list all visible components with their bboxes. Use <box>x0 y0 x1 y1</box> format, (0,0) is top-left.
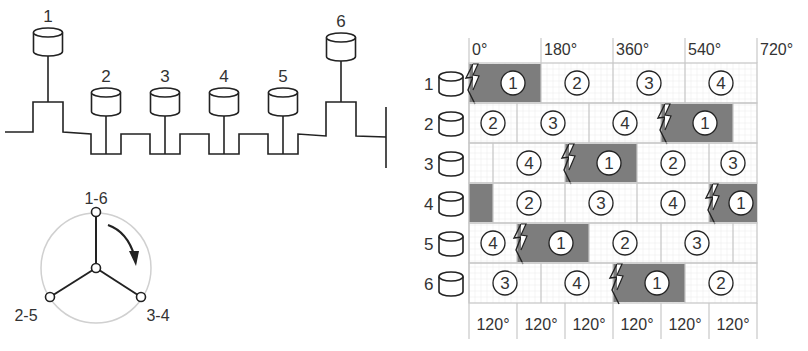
crank-throw-diagram: 1-62-53-4 <box>14 190 169 324</box>
svg-text:2-5: 2-5 <box>14 307 37 324</box>
cylinder-6-icon <box>327 33 356 61</box>
cylinder-5-icon <box>269 88 298 116</box>
svg-text:4: 4 <box>572 274 581 293</box>
svg-text:1: 1 <box>652 274 661 293</box>
chart-row-cylinder-6: 61234 <box>424 263 757 304</box>
cylinder-4-icon <box>210 88 239 116</box>
svg-text:2: 2 <box>620 234 629 253</box>
row-cylinder-icon <box>439 232 463 256</box>
row-cylinder-label: 6 <box>424 275 433 294</box>
degree-tick-label: 180° <box>544 41 577 58</box>
chart-row-cylinder-5: 51234 <box>424 223 757 264</box>
svg-text:3-4: 3-4 <box>146 307 169 324</box>
row-cylinder-icon <box>439 152 463 176</box>
cylinder-number-label: 3 <box>160 67 169 86</box>
row-cylinder-icon <box>439 192 463 216</box>
cylinder-2-icon <box>92 88 121 116</box>
cylinder-number-label: 4 <box>219 67 228 86</box>
svg-text:1: 1 <box>700 114 709 133</box>
svg-text:1-6: 1-6 <box>84 190 107 207</box>
svg-text:4: 4 <box>668 194 677 213</box>
svg-text:2: 2 <box>524 194 533 213</box>
cylinder-number-label: 5 <box>278 67 287 86</box>
svg-text:4: 4 <box>716 74 725 93</box>
row-cylinder-label: 3 <box>424 155 433 174</box>
row-cylinder-icon <box>439 72 463 96</box>
row-cylinder-label: 2 <box>424 115 433 134</box>
degree-tick-label: 0° <box>472 41 487 58</box>
chart-row-cylinder-3: 31234 <box>424 143 757 184</box>
svg-text:3: 3 <box>728 154 737 173</box>
svg-text:1: 1 <box>508 74 517 93</box>
svg-text:4: 4 <box>620 114 629 133</box>
diagram-canvas: 1234561-62-53-40°180°360°540°720°1123421… <box>0 0 808 351</box>
degree-tick-label: 360° <box>616 41 649 58</box>
svg-text:3: 3 <box>692 234 701 253</box>
row-cylinder-label: 1 <box>424 75 433 94</box>
svg-text:2: 2 <box>668 154 677 173</box>
cylinder-number-label: 6 <box>336 12 345 31</box>
cylinder-number-label: 1 <box>43 7 52 26</box>
cylinder-1-icon <box>34 28 63 56</box>
svg-text:3: 3 <box>500 274 509 293</box>
interval-label: 120° <box>524 316 557 333</box>
svg-text:3: 3 <box>596 194 605 213</box>
interval-label: 120° <box>476 316 509 333</box>
svg-text:1: 1 <box>556 234 565 253</box>
interval-label: 120° <box>668 316 701 333</box>
row-cylinder-icon <box>439 112 463 136</box>
svg-text:3: 3 <box>644 74 653 93</box>
cylinder-number-label: 2 <box>101 67 110 86</box>
chart-row-cylinder-2: 21234 <box>424 103 757 144</box>
svg-text:2: 2 <box>572 74 581 93</box>
svg-text:2: 2 <box>488 114 497 133</box>
interval-label: 120° <box>620 316 653 333</box>
row-cylinder-label: 5 <box>424 235 433 254</box>
degree-tick-label: 720° <box>760 41 793 58</box>
cylinder-3-icon <box>151 88 180 116</box>
interval-label: 120° <box>716 316 749 333</box>
row-cylinder-icon <box>439 272 463 296</box>
firing-order-chart: 0°180°360°540°720°1123421234312344123451… <box>424 38 793 339</box>
svg-text:1: 1 <box>736 194 745 213</box>
svg-text:3: 3 <box>548 114 557 133</box>
svg-text:4: 4 <box>488 234 497 253</box>
crankshaft-diagram: 123456 <box>5 7 386 168</box>
interval-label: 120° <box>572 316 605 333</box>
svg-text:2: 2 <box>716 274 725 293</box>
svg-text:4: 4 <box>524 154 533 173</box>
degree-tick-label: 540° <box>688 41 721 58</box>
row-cylinder-label: 4 <box>424 195 433 214</box>
svg-text:1: 1 <box>604 154 613 173</box>
power-stroke-block <box>469 184 493 222</box>
